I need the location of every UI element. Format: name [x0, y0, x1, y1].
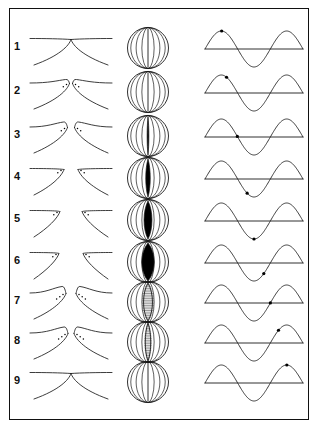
mucosal-marker-dot	[60, 170, 62, 172]
row-number-label: 1	[14, 41, 20, 52]
mucosal-marker-dot	[87, 214, 89, 216]
mucosal-marker-dot	[62, 294, 64, 296]
coronal-section-row-7	[28, 281, 114, 323]
mucosal-marker-dot	[52, 256, 54, 258]
fold-superior-margin	[30, 373, 71, 374]
fold-inferior-margin	[34, 334, 68, 360]
fold-inferior-margin	[34, 254, 59, 280]
glottis-cell-4	[118, 155, 178, 201]
coronal-section-row-5	[28, 199, 114, 241]
fold-inferior-margin	[34, 84, 70, 110]
phase-marker-dot	[262, 272, 265, 275]
coronal-cell-4	[28, 157, 114, 199]
mucosal-marker-dot	[84, 212, 86, 214]
mucosal-marker-dot	[88, 256, 90, 258]
mucosal-marker-dot	[78, 294, 80, 296]
phase-marker-dot	[285, 363, 288, 366]
fold-superior-margin	[78, 169, 112, 170]
coronal-cell-2	[28, 71, 114, 113]
mucosal-marker-dot	[64, 128, 66, 130]
fold-inferior-margin	[74, 334, 108, 360]
fold-inferior-margin	[78, 170, 108, 196]
glottal-view-row-4	[118, 155, 178, 201]
fold-superior-margin	[71, 373, 112, 374]
mucosal-marker-dot	[56, 212, 58, 214]
coronal-section-row-4	[28, 157, 114, 199]
phase-marker-dot	[277, 329, 280, 332]
coronal-cell-1	[28, 27, 114, 69]
row-number-label: 6	[14, 255, 20, 266]
phase-waveform-row-7	[202, 282, 306, 324]
fold-inferior-margin	[76, 294, 108, 320]
glottal-aperture	[144, 201, 152, 239]
mucosal-marker-dot	[57, 172, 59, 174]
mucosal-marker-dot	[75, 84, 77, 86]
fold-superior-margin	[30, 122, 68, 128]
glottal-view-row-9	[118, 359, 178, 405]
phase-waveform-row-3	[202, 116, 306, 158]
fold-inferior-margin	[75, 128, 109, 154]
mucosal-marker-dot	[85, 298, 87, 300]
phase-marker-dot	[246, 192, 249, 195]
fold-inferior-margin	[71, 40, 108, 66]
coronal-section-row-1	[28, 27, 114, 69]
mucosal-marker-dot	[83, 172, 85, 174]
mucosal-marker-dot	[59, 296, 61, 298]
phase-waveform-row-8	[202, 322, 306, 364]
fold-inferior-margin	[34, 294, 66, 320]
fold-inferior-margin	[34, 212, 60, 238]
fold-superior-margin	[71, 39, 112, 40]
fold-inferior-margin	[34, 40, 71, 66]
fold-superior-margin	[83, 253, 112, 254]
coronal-section-row-8	[28, 321, 114, 363]
mucosal-marker-dot	[61, 130, 63, 132]
mucosal-marker-dot	[83, 338, 85, 340]
fold-inferior-margin	[34, 170, 64, 196]
phase-row-list: 123456789	[10, 9, 308, 419]
row-number-label: 4	[14, 171, 20, 182]
fold-superior-margin	[30, 253, 59, 254]
mucosal-marker-dot	[80, 130, 82, 132]
coronal-cell-8	[28, 321, 114, 363]
mucosal-marker-dot	[78, 86, 80, 88]
waveform-cell-4	[202, 158, 306, 200]
fold-inferior-margin	[73, 84, 109, 110]
phase-waveform-row-9	[202, 362, 306, 404]
fold-inferior-margin	[82, 212, 108, 238]
mucosal-marker-dot	[53, 214, 55, 216]
glottis-cell-3	[118, 113, 178, 159]
glottal-aperture	[147, 117, 149, 155]
coronal-cell-5	[28, 199, 114, 241]
glottal-aperture	[146, 159, 150, 197]
glottis-cell-2	[118, 69, 178, 115]
glottal-view-row-3	[118, 113, 178, 159]
fold-superior-margin	[76, 286, 112, 293]
waveform-cell-7	[202, 282, 306, 324]
coronal-section-row-3	[28, 115, 114, 157]
mucosal-marker-dot	[58, 338, 60, 340]
row-number-label: 7	[14, 295, 20, 306]
waveform-cell-1	[202, 28, 306, 70]
fold-superior-margin	[30, 39, 71, 40]
fold-superior-margin	[30, 286, 66, 293]
waveform-cell-3	[202, 116, 306, 158]
fold-superior-margin	[82, 211, 112, 212]
fold-inferior-margin	[83, 254, 108, 280]
phase-waveform-row-2	[202, 72, 306, 114]
row-number-label: 9	[14, 375, 20, 386]
mucosal-marker-dot	[56, 298, 58, 300]
mucosal-marker-dot	[63, 86, 65, 88]
mucosal-marker-dot	[85, 254, 87, 256]
mucosal-marker-dot	[55, 254, 57, 256]
mucosal-marker-dot	[77, 128, 79, 130]
mucosal-marker-dot	[80, 170, 82, 172]
row-number-label: 8	[14, 335, 20, 346]
glottis-cell-1	[118, 25, 178, 71]
phase-waveform-row-1	[202, 28, 306, 70]
glottal-view-row-2	[118, 69, 178, 115]
fold-inferior-margin	[34, 128, 68, 154]
coronal-cell-3	[28, 115, 114, 157]
waveform-cell-2	[202, 72, 306, 114]
coronal-cell-7	[28, 281, 114, 323]
row-number-label: 2	[14, 85, 20, 96]
